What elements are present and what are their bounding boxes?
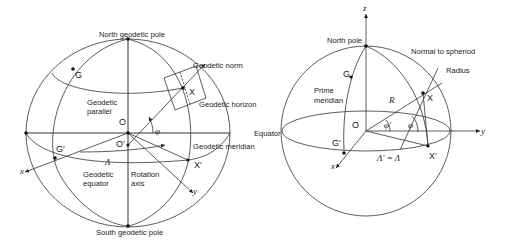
geodetic-equator-label-2: equator xyxy=(83,179,109,188)
south-geodetic-pole-label: South geodetic pole xyxy=(96,228,163,237)
point-x-label-right: X xyxy=(427,94,433,103)
point-x-label: X xyxy=(189,88,195,97)
rotation-axis-label-2: axis xyxy=(131,179,145,188)
lambda-label: Λ xyxy=(105,158,110,167)
left-spheroid-diagram xyxy=(0,0,505,245)
north-pole-label: North pole xyxy=(327,36,362,45)
north-geodetic-pole-label: North geodetic pole xyxy=(99,30,165,39)
y-axis-label: y xyxy=(193,187,197,196)
meridian-x-right xyxy=(366,46,428,145)
origin-label-right: O xyxy=(352,121,359,130)
geodetic-horizon-label: Geodetic horizon xyxy=(199,100,256,109)
geodetic-equator-label-1: Geodetic xyxy=(83,170,113,179)
point-g-prime-label: G′ xyxy=(56,145,65,154)
origin-label: O xyxy=(119,118,126,127)
point-g-label: G xyxy=(75,71,82,80)
longitude-relation-label: Λ′ = Λ xyxy=(377,154,400,163)
point-x-prime-label-right: X′ xyxy=(429,152,437,161)
point-x-prime-label: X′ xyxy=(194,161,202,170)
y-axis-label-right: y xyxy=(481,127,485,136)
prime-meridian-label-1: Prime xyxy=(314,86,334,95)
origin-prime-label: O′ xyxy=(116,140,125,149)
geodetic-parallel xyxy=(52,73,183,93)
equator-label: Equator xyxy=(254,129,281,138)
phi-label: φ xyxy=(155,127,160,136)
point-g-prime-label-right: G′ xyxy=(332,139,341,148)
radius-line xyxy=(366,83,442,131)
x-axis xyxy=(25,133,128,172)
normal-to-spheroid-label: Normal to spheriod xyxy=(411,47,475,56)
rotation-axis-label-1: Rotation xyxy=(131,170,159,179)
geodetic-norm-label: Geodetic norm xyxy=(193,61,243,70)
z-axis-label: z xyxy=(363,4,367,13)
phi-prime-label: φ′ xyxy=(384,121,391,130)
normal-line xyxy=(400,68,438,150)
prime-meridian xyxy=(344,46,366,150)
prime-meridian-label-2: meridian xyxy=(314,96,343,105)
geodetic-meridian-label: Geodetic meridian xyxy=(193,142,255,151)
phi-label-right: φ xyxy=(408,121,413,130)
x-axis-label: x xyxy=(20,167,24,176)
radius-label: Radius xyxy=(446,66,470,75)
radius-symbol-label: R xyxy=(389,96,395,105)
geodesy-figure: North geodetic pole Geodetic norm G X Ge… xyxy=(0,0,505,245)
geodetic-parallel-label-1: Geodetic xyxy=(87,98,117,107)
x-axis-right xyxy=(336,131,366,168)
geodetic-parallel-label-2: parallel xyxy=(87,107,111,116)
x-axis-label-right: x xyxy=(331,162,335,171)
point-g-label-right: G xyxy=(343,70,350,79)
